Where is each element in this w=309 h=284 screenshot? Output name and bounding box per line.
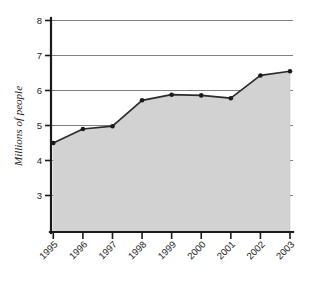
- data-point-marker: [169, 92, 174, 97]
- data-point-marker: [229, 96, 234, 101]
- x-axis-tick-label: 2003: [274, 239, 297, 262]
- line-area-chart: 345678 199519961997199819992000200120022…: [0, 0, 309, 284]
- data-point-marker: [140, 98, 145, 103]
- chart-canvas: 345678 199519961997199819992000200120022…: [0, 0, 309, 284]
- data-point-marker: [258, 73, 263, 78]
- x-axis-tick-label: 1997: [96, 239, 119, 262]
- x-axis-tick-label: 1995: [37, 239, 60, 262]
- y-axis-tick-label: 6: [37, 85, 42, 96]
- data-point-marker: [199, 93, 204, 98]
- x-axis-tick-label: 2002: [244, 239, 267, 262]
- y-axis-tick-label: 8: [37, 15, 42, 26]
- data-point-marker: [81, 127, 86, 132]
- data-point-marker: [110, 124, 115, 129]
- y-axis-title: Millions of people: [12, 86, 24, 167]
- x-axis-tick-label: 2001: [215, 239, 238, 262]
- x-axis-tick-label: 1998: [126, 239, 149, 262]
- x-axis-tick-labels: 199519961997199819992000200120022003: [37, 239, 296, 262]
- x-axis-tick-label: 1996: [67, 239, 90, 262]
- y-axis-tick-label: 5: [37, 120, 42, 131]
- y-axis-tick-label: 4: [37, 155, 42, 166]
- y-axis-tick-labels: 345678: [37, 15, 42, 201]
- x-axis-tick-label: 2000: [185, 239, 208, 262]
- x-axis-tick-label: 1999: [155, 239, 178, 262]
- y-axis-tick-label: 7: [37, 50, 42, 61]
- data-point-marker: [288, 69, 293, 74]
- y-axis-tick-label: 3: [37, 190, 42, 201]
